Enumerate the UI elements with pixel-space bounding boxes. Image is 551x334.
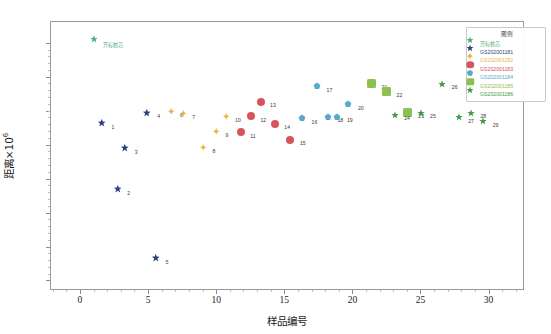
x-minor-tick [312, 290, 313, 292]
x-minor-tick [380, 290, 381, 292]
data-point-label: 12 [260, 117, 266, 123]
y-minor-tick [48, 138, 50, 139]
x-minor-tick [393, 290, 394, 292]
data-point[interactable] [155, 258, 164, 267]
data-point-label: 8 [213, 148, 216, 154]
y-tick-mark [46, 77, 50, 78]
legend-item[interactable]: GS202001181 [470, 48, 543, 56]
y-tick-mark [46, 280, 50, 281]
x-minor-tick [448, 290, 449, 292]
y-minor-tick [48, 111, 50, 112]
legend-item-label: GS202001185 [480, 82, 513, 90]
legend-item[interactable]: GS202001184 [470, 73, 543, 81]
x-minor-tick [325, 290, 326, 292]
data-point-label: 15 [300, 140, 306, 146]
data-point-label: 29 [493, 122, 499, 128]
data-point[interactable] [261, 102, 269, 110]
y-minor-tick [48, 117, 50, 118]
x-tick-mark [148, 290, 149, 294]
legend-item[interactable]: GS202001182 [470, 56, 543, 64]
x-tick-label: 20 [348, 295, 358, 305]
legend-items: 开标桩芯GS202001181GS202001182GS202001183GS2… [470, 40, 543, 99]
data-point-label: 5 [165, 259, 168, 265]
data-point[interactable] [275, 124, 283, 132]
data-point[interactable] [471, 113, 479, 121]
x-axis-title: 样品编号 [267, 313, 307, 328]
x-tick-mark [352, 290, 353, 294]
data-point-label: 9 [226, 132, 229, 138]
y-minor-tick [48, 260, 50, 261]
data-point[interactable] [251, 116, 259, 124]
legend-item[interactable]: GS202001186 [470, 90, 543, 98]
data-point[interactable] [317, 86, 325, 94]
x-minor-tick [121, 290, 122, 292]
data-point[interactable] [183, 113, 191, 121]
data-point-label: 7 [192, 114, 195, 120]
x-tick-label: 10 [211, 295, 221, 305]
legend-item-label: GS202001186 [480, 90, 513, 98]
y-minor-tick [48, 274, 50, 275]
data-point-label: 16 [312, 119, 318, 125]
y-minor-tick [48, 70, 50, 71]
y-minor-tick [48, 199, 50, 200]
data-point[interactable] [337, 117, 345, 125]
data-point[interactable] [217, 132, 225, 140]
y-minor-tick [48, 90, 50, 91]
y-minor-tick [48, 233, 50, 234]
x-minor-tick [203, 290, 204, 292]
data-point[interactable] [290, 140, 298, 148]
y-minor-tick [48, 97, 50, 98]
y-minor-tick [48, 226, 50, 227]
data-point-label: 13 [270, 102, 276, 108]
data-point[interactable] [442, 84, 450, 92]
x-tick-label: 0 [78, 295, 83, 305]
data-point[interactable] [371, 83, 380, 92]
data-point[interactable] [204, 148, 212, 156]
y-minor-tick [48, 131, 50, 132]
y-minor-tick [48, 151, 50, 152]
legend-item-label: GS202001182 [480, 56, 513, 64]
data-point[interactable] [302, 118, 310, 126]
x-minor-tick [94, 290, 95, 292]
data-point[interactable] [171, 111, 179, 119]
data-point[interactable] [348, 104, 356, 112]
plot-frame [50, 21, 524, 290]
x-minor-tick [107, 290, 108, 292]
data-point[interactable] [459, 117, 467, 125]
data-point[interactable] [421, 113, 429, 121]
data-point[interactable] [125, 148, 134, 157]
data-point[interactable] [483, 121, 491, 129]
y-minor-tick [48, 172, 50, 173]
legend-title: 图例 [470, 30, 543, 38]
y-minor-tick [48, 124, 50, 125]
data-point[interactable] [117, 189, 126, 198]
x-minor-tick [162, 290, 163, 292]
data-point[interactable] [241, 132, 249, 140]
legend-item-label: GS202001184 [480, 73, 513, 81]
legend[interactable]: 图例 开标桩芯GS202001181GS202001182GS202001183… [466, 27, 546, 102]
data-point-label: 26 [452, 84, 458, 90]
y-tick-mark [46, 145, 50, 146]
y-axis-title-text: 距离×10 [3, 137, 15, 179]
y-tick-mark [46, 43, 50, 44]
y-minor-tick [48, 219, 50, 220]
data-point[interactable] [94, 39, 102, 47]
data-point-label: 3 [135, 149, 138, 155]
data-point[interactable] [226, 116, 234, 124]
legend-item[interactable]: GS202001183 [470, 65, 543, 73]
reference-point-annotation: 开标桩芯 [103, 41, 123, 48]
x-tick-label: 15 [280, 295, 290, 305]
legend-item[interactable]: GS202001185 [470, 81, 543, 89]
data-point[interactable] [102, 123, 111, 132]
data-point[interactable] [386, 91, 395, 100]
y-minor-tick [48, 158, 50, 159]
data-point-label: 14 [284, 124, 290, 130]
data-point[interactable] [147, 113, 156, 122]
x-minor-tick [271, 290, 272, 292]
x-tick-mark [80, 290, 81, 294]
x-tick-label: 5 [146, 295, 151, 305]
data-point[interactable] [395, 115, 403, 123]
legend-item[interactable]: 开标桩芯 [470, 40, 543, 48]
y-tick-mark [46, 213, 50, 214]
y-minor-tick [48, 56, 50, 57]
